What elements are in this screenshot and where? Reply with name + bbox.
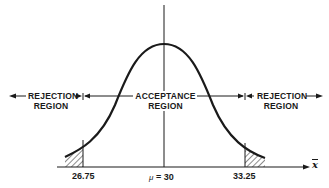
right-rejection-label: REJECTION REGION [256, 91, 306, 111]
arrow-right-icon [238, 94, 244, 99]
acceptance-label-line1: ACCEPTANCE [135, 91, 196, 101]
x-axis-arrowhead-icon [303, 165, 310, 170]
left-rejection-label: REJECTION REGION [27, 91, 75, 111]
arrow-right-icon [316, 94, 323, 99]
overbar [312, 159, 318, 160]
acceptance-label-line2: REGION [135, 101, 196, 111]
right-rejection-label-line1: REJECTION [257, 91, 305, 101]
x-bar-variable: x [312, 159, 318, 170]
acceptance-label: ACCEPTANCE REGION [134, 91, 197, 111]
arrow-left-icon [84, 94, 90, 99]
x-bar-axis-label: x [312, 159, 318, 170]
left-rejection-label-line1: REJECTION [28, 91, 74, 101]
arrow-left-icon [9, 94, 16, 99]
mean-label: μ = 30 [149, 172, 174, 182]
left-rejection-label-line2: REGION [28, 101, 74, 111]
upper-critical-value: 33.25 [233, 171, 256, 181]
mean-symbol: μ [149, 173, 153, 182]
mean-value: = 30 [156, 172, 174, 182]
right-rejection-label-line2: REGION [257, 101, 305, 111]
lower-critical-value: 26.75 [72, 171, 95, 181]
arrow-left-icon [246, 94, 252, 99]
